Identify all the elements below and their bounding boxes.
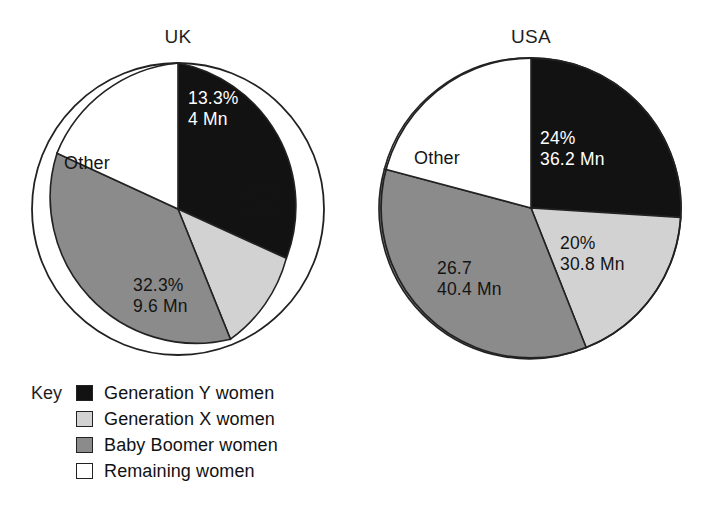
usa-baby-boomer-value: 26.7 40.4 Mn	[437, 258, 502, 300]
legend-label-generation-x: Generation X women	[104, 409, 275, 429]
usa-chart-title: USA	[461, 26, 601, 48]
uk-other-label: Other	[64, 153, 110, 174]
usa-generation-x-percent: 20%	[560, 233, 596, 253]
legend-item-generation-y: Generation Y women	[76, 380, 278, 406]
legend-swatch-generation-x	[76, 411, 93, 427]
usa-pie-chart	[380, 57, 684, 361]
usa-generation-x-value: 20% 30.8 Mn	[560, 233, 625, 275]
usa-generation-y-absolute: 36.2 Mn	[540, 149, 605, 169]
uk-generation-y-absolute: 4 Mn	[188, 109, 228, 129]
legend-item-generation-x: Generation X women	[76, 406, 278, 432]
legend-label-baby-boomer: Baby Boomer women	[104, 435, 278, 455]
uk-baby-boomer-percent: 32.3%	[133, 275, 184, 295]
usa-generation-x-absolute: 30.8 Mn	[560, 254, 625, 274]
usa-baby-boomer-percent: 26.7	[437, 258, 472, 278]
usa-generation-y-value: 24% 36.2 Mn	[540, 128, 605, 170]
legend-item-list: Generation Y women Generation X women Ba…	[76, 380, 278, 484]
usa-other-label: Other	[414, 148, 460, 169]
chart-legend: Key Generation Y women Generation X wome…	[31, 380, 278, 484]
uk-generation-y-percent: 13.3%	[188, 88, 239, 108]
legend-label-remaining: Remaining women	[104, 461, 255, 481]
legend-item-remaining: Remaining women	[76, 458, 278, 484]
uk-baby-boomer-value: 32.3% 9.6 Mn	[133, 275, 188, 317]
legend-key-label: Key	[31, 380, 62, 406]
uk-generation-y-value: 13.3% 4 Mn	[188, 88, 239, 130]
usa-generation-y-percent: 24%	[540, 128, 576, 148]
uk-generation-x-value: 20% 6 Mn	[243, 180, 283, 222]
legend-swatch-generation-y	[76, 385, 93, 401]
legend-label-generation-y: Generation Y women	[104, 383, 274, 403]
legend-swatch-baby-boomer	[76, 437, 93, 453]
uk-baby-boomer-absolute: 9.6 Mn	[133, 296, 188, 316]
uk-generation-x-percent: 20%	[243, 180, 279, 200]
legend-swatch-remaining	[76, 463, 93, 479]
usa-baby-boomer-absolute: 40.4 Mn	[437, 279, 502, 299]
uk-generation-x-absolute: 6 Mn	[243, 201, 283, 221]
pie-charts-figure: UK 13.3% 4 Mn 20% 6 Mn 32.3% 9.6 Mn Othe…	[0, 0, 706, 370]
uk-chart-title: UK	[108, 26, 248, 48]
legend-item-baby-boomer: Baby Boomer women	[76, 432, 278, 458]
